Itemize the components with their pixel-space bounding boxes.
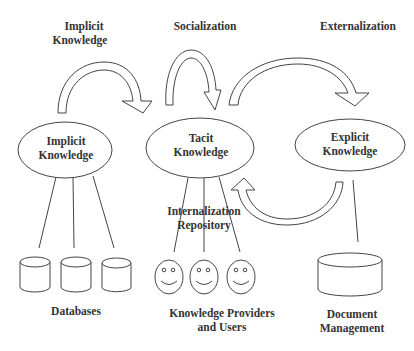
arrow-internalization <box>231 178 343 225</box>
arrow-implicit-to-tacit <box>58 62 152 113</box>
label-internalization-line2: Repository <box>177 219 231 232</box>
label-providers-line1: Knowledge Providers <box>169 307 275 320</box>
label-socialization: Socialization <box>174 20 237 32</box>
node-implicit-label-line1: Implicit <box>47 135 86 148</box>
node-implicit-label-line2: Knowledge <box>39 149 94 162</box>
label-implicit-knowledge-top-line2: Knowledge <box>53 34 108 47</box>
database-icon <box>102 258 131 292</box>
connector-implicit-db1 <box>39 177 56 248</box>
document-store-database-icon <box>318 253 382 296</box>
connector-implicit-db2 <box>73 178 74 248</box>
label-implicit-knowledge-top-line1: Implicit <box>65 20 104 33</box>
smiley-face-icon <box>155 260 183 294</box>
label-document-management-line1: Document <box>327 308 378 320</box>
database-icon <box>20 257 50 292</box>
label-document-management-line2: Management <box>320 322 385 335</box>
label-providers-line2: and Users <box>198 321 247 333</box>
node-explicit-label-line2: Knowledge <box>323 145 378 158</box>
node-tacit-label-line1: Tacit <box>189 132 214 144</box>
node-explicit-label-line1: Explicit <box>331 131 370 144</box>
node-tacit-label-line2: Knowledge <box>174 146 229 159</box>
connector-explicit-docmgmt <box>353 180 358 242</box>
arrow-socialization-loop <box>166 50 221 110</box>
database-icon <box>61 257 91 292</box>
label-externalization: Externalization <box>320 20 397 32</box>
arrow-externalization <box>229 58 369 106</box>
knowledge-conversion-diagram: Implicit Knowledge Socialization Externa… <box>0 0 414 351</box>
label-databases: Databases <box>51 305 101 317</box>
smiley-face-icon <box>227 260 255 294</box>
smiley-face-icon <box>190 260 218 294</box>
label-internalization-line1: Internalization <box>167 205 241 217</box>
connector-implicit-db3 <box>93 176 114 248</box>
